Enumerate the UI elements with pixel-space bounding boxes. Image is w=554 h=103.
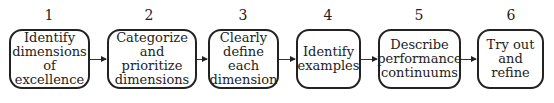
arrow-5-6 bbox=[461, 59, 476, 60]
step-box-5: Describe performance continuums bbox=[378, 29, 461, 89]
step-box-2: Categorize and prioritize dimensions bbox=[107, 29, 197, 89]
step-number-2: 2 bbox=[139, 7, 159, 23]
step-number-1: 1 bbox=[39, 7, 59, 23]
arrow-3-4 bbox=[279, 59, 295, 60]
step-box-3: Clearly define each dimension bbox=[208, 29, 279, 89]
step-number-6: 6 bbox=[501, 7, 521, 23]
step-number-5: 5 bbox=[409, 7, 429, 23]
step-number-3: 3 bbox=[233, 7, 253, 23]
step-box-4: Identify examples bbox=[296, 29, 361, 89]
step-number-4: 4 bbox=[318, 7, 338, 23]
arrow-1-2 bbox=[90, 59, 106, 60]
step-box-6: Try out and refine bbox=[477, 29, 544, 89]
step-box-1: Identify dimensions of excellence bbox=[9, 29, 90, 89]
arrow-2-3 bbox=[197, 59, 207, 60]
arrow-4-5 bbox=[361, 59, 377, 60]
